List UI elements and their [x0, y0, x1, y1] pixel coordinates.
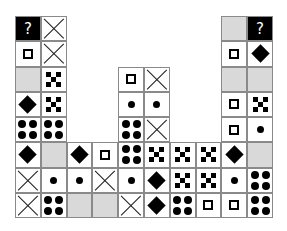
grid-cell [41, 117, 67, 142]
grid-cell [247, 67, 273, 92]
grid-cell [67, 193, 93, 218]
grid-cell [118, 67, 144, 92]
cross-icon [42, 17, 66, 40]
four-dots-icon [251, 196, 270, 215]
grid-cell [118, 92, 144, 117]
grid-cell [144, 117, 170, 142]
dot-icon [76, 177, 83, 184]
diamond-icon [70, 146, 88, 164]
grid-cell [92, 193, 118, 218]
diamond-icon [148, 196, 166, 214]
checker-five-icon [201, 173, 216, 188]
dot-icon [257, 126, 264, 133]
diamond-icon [19, 146, 37, 164]
grid-cell [118, 168, 144, 193]
grid-cell [144, 92, 170, 117]
checker-five-icon [175, 173, 190, 188]
grid-cell [15, 117, 41, 142]
grid-cell [118, 117, 144, 142]
checker-five-icon [46, 97, 61, 112]
grid-cell [92, 142, 118, 167]
grid-cell [41, 92, 67, 117]
grid-cell [221, 92, 247, 117]
checker-five-icon [175, 147, 190, 162]
square-icon [203, 200, 213, 210]
grid-cell [41, 142, 67, 167]
question-cell: ? [24, 20, 32, 38]
grid-cell [144, 142, 170, 167]
dot-icon [128, 177, 135, 184]
square-icon [229, 125, 239, 135]
square-icon [23, 49, 33, 59]
cross-icon [119, 194, 143, 217]
grid-cell [221, 41, 247, 66]
grid-cell [144, 193, 170, 218]
grid-cell [247, 41, 273, 66]
grid-cell [15, 142, 41, 167]
grid-cell [15, 41, 41, 66]
grid-cell [170, 168, 196, 193]
grid-cell [41, 41, 67, 66]
cross-icon [145, 68, 169, 91]
checker-five-icon [46, 72, 61, 87]
grid-cell [41, 168, 67, 193]
grid-cell [221, 142, 247, 167]
grid-cell [15, 193, 41, 218]
cross-icon [16, 169, 40, 192]
square-icon [229, 99, 239, 109]
four-dots-icon [122, 145, 141, 164]
grid-cell [221, 16, 247, 41]
grid-cell [15, 168, 41, 193]
diamond-icon [225, 146, 243, 164]
grid-cell [170, 193, 196, 218]
four-dots-icon [44, 196, 63, 215]
grid-cell [247, 92, 273, 117]
grid-cell [15, 67, 41, 92]
cross-icon [16, 194, 40, 217]
grid-cell [196, 168, 222, 193]
grid-cell [170, 142, 196, 167]
checker-five-icon [201, 147, 216, 162]
checker-five-icon [253, 97, 268, 112]
checker-five-icon [149, 147, 164, 162]
grid-cell [67, 142, 93, 167]
grid-cell [247, 117, 273, 142]
grid-cell [247, 193, 273, 218]
grid-cell [41, 193, 67, 218]
question-cell: ? [256, 20, 264, 38]
grid-cell [118, 193, 144, 218]
cross-icon [145, 118, 169, 141]
cross-icon [93, 169, 117, 192]
square-icon [229, 200, 239, 210]
grid-cell [118, 142, 144, 167]
diamond-icon [148, 171, 166, 189]
diamond-icon [19, 95, 37, 113]
four-dots-icon [44, 120, 63, 139]
grid-cell [67, 168, 93, 193]
grid-cell [221, 117, 247, 142]
grid-cell [221, 193, 247, 218]
grid-cell [196, 142, 222, 167]
four-dots-icon [251, 171, 270, 190]
four-dots-icon [173, 196, 192, 215]
grid-cell [144, 168, 170, 193]
square-icon [100, 150, 110, 160]
grid-cell [144, 67, 170, 92]
grid-cell[interactable]: ? [247, 16, 273, 41]
four-dots-icon [18, 120, 37, 139]
diamond-icon [251, 45, 269, 63]
grid-cell [15, 92, 41, 117]
grid-cell [41, 67, 67, 92]
grid-cell [41, 16, 67, 41]
grid-cell [221, 67, 247, 92]
four-dots-icon [122, 120, 141, 139]
square-icon [229, 49, 239, 59]
grid-cell [247, 142, 273, 167]
dot-icon [231, 177, 238, 184]
grid-cell [221, 168, 247, 193]
grid-cell[interactable]: ? [15, 16, 41, 41]
cross-icon [42, 42, 66, 65]
grid-cell [92, 168, 118, 193]
square-icon [126, 74, 136, 84]
dot-icon [153, 101, 160, 108]
